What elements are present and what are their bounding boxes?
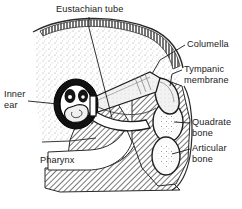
label-quadrate-bone: Quadrate bone (192, 117, 231, 138)
label-eustachian-tube: Eustachian tube (56, 4, 123, 15)
label-columella: Columella (187, 39, 229, 50)
label-tympanic-membrane: Tympanic membrane (184, 64, 229, 85)
inner-ear-cochlea (54, 79, 98, 129)
label-articular-bone: Articular bone (192, 143, 227, 164)
articular-bone-body (152, 137, 180, 175)
label-inner-ear: Inner ear (4, 89, 25, 110)
anatomical-diagram-figure: Eustachian tube Columella Tympanic membr… (0, 0, 242, 209)
label-pharynx: Pharynx (40, 155, 74, 166)
diagram-artwork (0, 0, 242, 209)
